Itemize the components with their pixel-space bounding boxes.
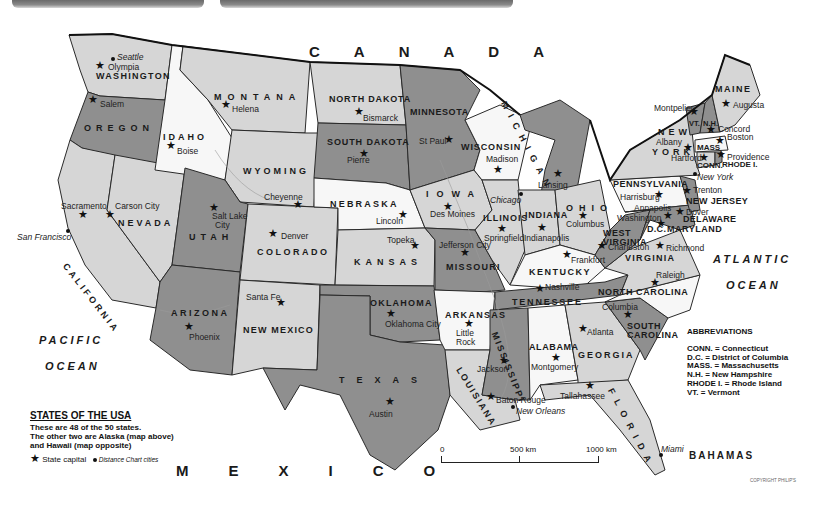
star-icon: ★: [460, 247, 470, 258]
capital-carson: Carson City: [115, 202, 159, 211]
legend-capital-label: State capital: [42, 455, 86, 464]
capital-augusta: Augusta: [733, 101, 764, 110]
star-icon: ★: [386, 308, 396, 319]
ocean-label-atlantic-1: ATLANTIC: [713, 254, 791, 265]
scale-tick-500: 500 km: [510, 445, 536, 454]
capital-pierre: Pierre: [347, 156, 370, 165]
star-icon: ★: [398, 209, 408, 220]
star-icon: ★: [88, 94, 98, 105]
star-icon: ★: [486, 391, 496, 402]
capital-richmond: Richmond: [666, 244, 704, 253]
ocean-label-pacific-2: OCEAN: [45, 361, 100, 372]
star-icon: ★: [675, 206, 685, 217]
legend-line-2: The other two are Alaska (map above): [30, 432, 174, 441]
city-miami: Miami: [661, 445, 684, 454]
star-icon: ★: [706, 124, 716, 135]
state-colorado: [240, 204, 338, 285]
capital-des-moines: Des Moines: [430, 210, 475, 219]
state-label-south-carolina-2: CAROLINA: [627, 331, 679, 340]
star-icon: ★: [535, 283, 545, 294]
dot-icon: [93, 458, 97, 462]
star-icon: ★: [105, 209, 115, 220]
capital-providence: Providence: [727, 153, 770, 162]
capital-springfield: Springfield: [484, 234, 524, 243]
star-icon: ★: [597, 240, 607, 251]
city-new-york: New York: [697, 173, 733, 182]
dot-icon: [511, 405, 515, 409]
state-label-arkansas: ARKANSAS: [445, 311, 506, 320]
capital-bismarck: Bismarck: [363, 114, 398, 123]
star-icon: ★: [715, 135, 725, 146]
star-icon: ★: [656, 218, 666, 229]
copyright-text: COPYRIGHT PHILIP'S: [750, 478, 796, 483]
star-icon: ★: [444, 134, 454, 145]
state-label-oregon: OREGON: [84, 124, 154, 133]
capital-salt-lake-2: City: [215, 221, 230, 230]
star-icon: ★: [276, 297, 286, 308]
city-chicago: Chicago: [490, 196, 521, 205]
capital-charleston: Charleston: [608, 243, 649, 252]
country-label-canada: CANADA: [309, 44, 578, 59]
state-label-south-dakota: SOUTH DAKOTA: [327, 138, 410, 147]
state-label-texas: TEXAS: [339, 376, 429, 385]
state-label-north-dakota: NORTH DAKOTA: [329, 95, 411, 104]
star-icon: ★: [655, 240, 665, 251]
city-san-francisco: San Francisco: [17, 233, 71, 242]
capital-helena: Helena: [232, 105, 259, 114]
capital-raleigh: Raleigh: [656, 271, 685, 280]
capital-trenton: Trenton: [693, 186, 722, 195]
capital-denver: Denver: [281, 232, 308, 241]
state-label-wyoming: WYOMING: [243, 167, 309, 176]
country-label-bahamas: BAHAMAS: [689, 451, 754, 461]
state-label-north-carolina: NORTH CAROLINA: [598, 288, 688, 297]
legend-line-3: and Hawaii (map opposite): [30, 441, 174, 450]
capital-indianapolis: Indianapolis: [524, 234, 569, 243]
capital-oklahoma-city: Oklahoma City: [385, 320, 441, 329]
star-icon: ★: [682, 185, 692, 196]
state-label-wisconsin: WISCONSIN: [461, 143, 521, 152]
star-icon: ★: [221, 99, 231, 110]
capital-st-paul: St Paul: [419, 137, 446, 146]
legend-city-label: Distance Chart cities: [99, 456, 159, 463]
scale-tick-1000: 1000 km: [586, 445, 617, 454]
state-label-iowa: IOWA: [426, 190, 482, 199]
legend-line-1: These are 48 of the 50 states.: [30, 423, 174, 432]
capital-montpelier: Montpelier: [654, 104, 694, 113]
star-icon: ★: [716, 149, 726, 160]
star-icon: ★: [493, 164, 503, 175]
star-icon: ★: [689, 106, 699, 117]
capital-montgomery: Montgomery: [531, 363, 578, 372]
state-label-tennessee: TENNESSEE: [512, 298, 583, 307]
capital-baton-rouge: Baton Rouge: [496, 396, 546, 405]
state-label-minnesota: MINNESOTA: [410, 108, 469, 117]
state-label-nevada: NEVADA: [118, 219, 173, 228]
capital-boise: Boise: [177, 147, 198, 156]
capital-nashville: Nashville: [545, 283, 580, 292]
capital-salem: Salem: [100, 100, 124, 109]
state-label-washington: WASHINGTON: [96, 72, 171, 81]
state-label-missouri: MISSOURI: [446, 263, 501, 272]
state-label-arizona: ARIZONA: [171, 309, 230, 318]
state-label-vermont: VT.: [689, 120, 700, 128]
capital-columbus: Columbus: [566, 220, 604, 229]
state-label-virginia: VIRGINIA: [625, 254, 675, 263]
abbreviations-title: ABBREVIATIONS: [687, 328, 788, 337]
star-icon: ★: [78, 209, 88, 220]
state-label-kansas: KANSAS: [354, 258, 422, 267]
legend-title: STATES OF THE USA: [30, 410, 174, 422]
capital-frankfort: Frankfort: [571, 256, 605, 265]
star-icon: ★: [585, 380, 595, 391]
star-icon: ★: [95, 60, 105, 71]
capital-albany: Albany: [656, 138, 682, 147]
state-label-new-jersey: NEW JERSEY: [686, 197, 748, 206]
star-icon: ★: [699, 152, 709, 163]
capital-hartford: Hartford: [671, 154, 702, 163]
ocean-label-atlantic-2: OCEAN: [726, 280, 781, 291]
state-label-rhode-island: RHODE I.: [722, 161, 758, 169]
star-icon: ★: [537, 222, 547, 233]
star-icon: ★: [553, 168, 563, 179]
star-icon: ★: [166, 140, 176, 151]
city-new-orleans: New Orleans: [516, 407, 565, 416]
scale-bar: [441, 456, 599, 463]
abbreviations-box: ABBREVIATIONS CONN. = Connecticut D.C. =…: [687, 328, 788, 398]
